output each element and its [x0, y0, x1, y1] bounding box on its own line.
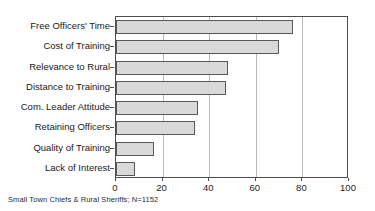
x-axis-tick-label: 60 — [250, 182, 261, 193]
x-axis-tick-mark — [301, 178, 302, 181]
bar-series — [116, 17, 347, 177]
y-axis-label: Relevance to Rural — [29, 57, 110, 77]
bar — [116, 142, 154, 156]
x-axis-tick-mark — [255, 178, 256, 181]
y-axis-label: Quality of Training — [33, 138, 110, 158]
y-axis-labels: Free Officers' TimeCost of TrainingRelev… — [0, 16, 110, 178]
y-axis-label: Distance to Training — [26, 77, 110, 97]
bar-row — [116, 159, 349, 179]
y-axis-tick-mark — [110, 168, 114, 169]
y-axis-tick-mark — [110, 127, 114, 128]
bar-row — [116, 58, 349, 78]
plot-area — [115, 16, 348, 178]
bar — [116, 101, 198, 115]
y-axis-label: Lack of Interest — [45, 158, 110, 178]
y-axis-tick-mark — [110, 46, 114, 47]
y-axis-label: Retaining Officers — [35, 117, 110, 137]
x-axis-tick-label: 20 — [156, 182, 167, 193]
x-axis-tick-label: 100 — [340, 182, 356, 193]
bar — [116, 61, 228, 75]
bar-chart: Free Officers' TimeCost of TrainingRelev… — [0, 0, 375, 211]
y-axis-tick-mark — [110, 107, 114, 108]
y-axis-label: Com. Leader Attitude — [21, 97, 110, 117]
y-axis-label: Cost of Training — [43, 36, 110, 56]
x-axis-ticks: 020406080100 — [115, 178, 348, 194]
x-axis-tick-mark — [115, 178, 116, 181]
x-axis-tick-label: 40 — [203, 182, 214, 193]
x-axis-tick-label: 0 — [112, 182, 117, 193]
y-axis-tick-mark — [110, 26, 114, 27]
bar-row — [116, 17, 349, 37]
bar — [116, 121, 195, 135]
y-axis-tick-mark — [110, 148, 114, 149]
y-axis-label: Free Officers' Time — [30, 16, 110, 36]
y-axis-tick-mark — [110, 67, 114, 68]
bar-row — [116, 37, 349, 57]
x-axis-tick-label: 80 — [296, 182, 307, 193]
x-axis-tick-mark — [348, 178, 349, 181]
bar-row — [116, 139, 349, 159]
bar — [116, 20, 293, 34]
x-axis-tick-mark — [208, 178, 209, 181]
chart-caption: Small Town Chiefs & Rural Sheriffs; N=11… — [8, 195, 158, 204]
bar — [116, 162, 135, 176]
bar-row — [116, 98, 349, 118]
bar-row — [116, 118, 349, 138]
x-axis-tick-mark — [162, 178, 163, 181]
bar-row — [116, 78, 349, 98]
y-axis-tick-mark — [110, 87, 114, 88]
bar — [116, 40, 279, 54]
bar — [116, 81, 226, 95]
